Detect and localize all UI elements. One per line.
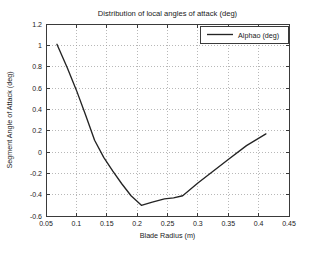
y-tick-label: 0.6 [32,85,42,92]
x-tick-label: 0.1 [72,220,82,227]
y-axis-label: Segment Angle of Attack (deg) [5,71,14,168]
y-tick-label: 1.2 [32,21,42,28]
x-tick-label: 0.25 [161,220,175,227]
legend-label-alphao: Alphao (deg) [238,31,279,40]
y-tick-label: -0.4 [30,191,42,198]
x-tick-labels: 0.050.10.150.20.250.30.350.40.45 [39,220,296,227]
x-tick-label: 0.15 [100,220,114,227]
x-tick-label: 0.2 [132,220,142,227]
line-chart: 0.050.10.150.20.250.30.350.40.45 1.210.8… [0,0,312,255]
x-tick-label: 0.05 [39,220,53,227]
x-axis-label: Blade Radius (m) [140,231,196,240]
x-tick-label: 0.3 [193,220,203,227]
y-tick-label: 0.8 [32,63,42,70]
chart-legend[interactable]: Alphao (deg) [200,26,288,43]
y-tick-label: 1 [38,42,42,49]
y-tick-label: 0.4 [32,106,42,113]
figure-canvas: 0.050.10.150.20.250.30.350.40.45 1.210.8… [0,0,312,255]
x-tick-label: 0.4 [254,220,264,227]
y-tick-label: -0.2 [30,170,42,177]
y-tick-label: -0.6 [30,213,42,220]
y-tick-labels: 1.210.80.60.40.20-0.2-0.4-0.6 [30,21,42,220]
y-tick-label: 0 [38,149,42,156]
chart-title: Distribution of local angles of attack (… [98,9,238,18]
x-tick-label: 0.35 [221,220,235,227]
x-tick-label: 0.45 [282,220,296,227]
y-tick-label: 0.2 [32,127,42,134]
